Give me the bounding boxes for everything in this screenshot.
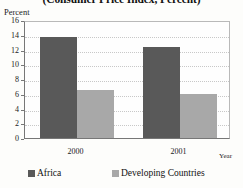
x-axis-category-label-2000: 2000 — [56, 147, 96, 156]
y-axis-tick-mark — [21, 95, 24, 96]
y-axis-tick-label: 16 — [0, 17, 19, 25]
plot-area — [24, 21, 230, 139]
chart-figure: (Consumer Price Index, Percent) Percent … — [0, 0, 243, 188]
legend-label-africa: Africa — [37, 168, 61, 178]
y-axis-tick-label: 14 — [0, 32, 19, 40]
x-axis-category-label-2001: 2001 — [159, 147, 199, 156]
y-axis-tick-label: 0 — [0, 135, 19, 143]
bar-africa-2000 — [40, 37, 77, 138]
chart-title: (Consumer Price Index, Percent) — [0, 0, 243, 5]
legend-label-developing-countries: Developing Countries — [121, 168, 205, 178]
y-axis-tick-mark — [21, 36, 24, 37]
legend-swatch-icon-africa — [28, 170, 35, 177]
y-axis-tick-label: 8 — [0, 76, 19, 84]
y-axis-tick-mark — [21, 51, 24, 52]
chart-legend: Africa Developing Countries — [0, 168, 243, 182]
y-axis-tick-label: 4 — [0, 106, 19, 114]
y-axis-tick-mark — [21, 139, 24, 140]
bar-developing-countries-2001 — [180, 94, 217, 138]
x-axis-label: Year — [219, 152, 232, 160]
y-axis-tick-label: 10 — [0, 61, 19, 69]
y-axis-tick-mark — [21, 124, 24, 125]
y-axis-tick-mark — [21, 65, 24, 66]
legend-entry-africa: Africa — [28, 168, 61, 178]
y-axis-tick-label: 6 — [0, 91, 19, 99]
bar-developing-countries-2000 — [77, 90, 114, 138]
y-axis-tick-label: 2 — [0, 120, 19, 128]
y-axis-tick-label: 12 — [0, 47, 19, 55]
y-axis-tick-mark — [21, 80, 24, 81]
y-axis-tick-mark — [21, 110, 24, 111]
bar-africa-2001 — [143, 47, 180, 138]
y-axis-tick-mark — [21, 21, 24, 22]
legend-entry-developing-countries: Developing Countries — [112, 168, 205, 178]
legend-swatch-icon-developing-countries — [112, 170, 119, 177]
